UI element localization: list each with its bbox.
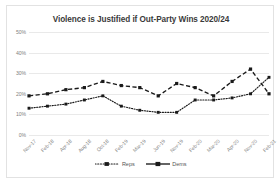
y-axis-tick-label: 40%	[16, 50, 26, 56]
data-point-marker	[120, 105, 123, 108]
legend-item-dems: Dems	[146, 161, 187, 167]
data-point-marker	[249, 67, 252, 70]
x-axis-tick-label: Nov-19	[169, 138, 184, 153]
data-point-marker	[212, 99, 215, 102]
x-axis-tick-label: Feb-20	[187, 138, 202, 153]
legend-label-reps: Reps	[122, 161, 135, 167]
data-point-marker	[175, 111, 178, 114]
data-point-marker	[157, 94, 160, 97]
y-axis-tick-label: 20%	[16, 91, 26, 97]
data-point-marker	[157, 111, 160, 114]
data-point-marker	[46, 92, 49, 95]
data-point-marker	[138, 109, 141, 112]
data-point-marker	[138, 86, 141, 89]
data-point-marker	[120, 84, 123, 87]
y-axis-tick-label: 50%	[16, 29, 26, 35]
gridline	[29, 135, 269, 136]
chart-legend: Reps Dems	[7, 161, 275, 167]
y-axis-tick-label: 10%	[16, 111, 26, 117]
data-point-marker	[175, 82, 178, 85]
legend-label-dems: Dems	[172, 161, 186, 167]
data-point-marker	[194, 86, 197, 89]
data-point-marker	[267, 92, 270, 95]
data-point-marker	[83, 99, 86, 102]
x-axis-tick-label: Mar-20	[206, 138, 221, 153]
data-point-marker	[28, 107, 31, 110]
x-axis-tick-label: Feb-19	[113, 138, 128, 153]
x-axis-ticks: Nov-17Feb-18Apr-18Aug-18Oct-18Feb-19Mar-…	[29, 138, 269, 162]
data-point-marker	[64, 88, 67, 91]
x-axis-tick-label: Feb-18	[40, 138, 55, 153]
data-point-marker	[83, 86, 86, 89]
legend-item-reps: Reps	[95, 161, 134, 167]
x-axis-tick-label: Jun-19	[151, 138, 166, 153]
y-axis-tick-label: 30%	[16, 70, 26, 76]
x-axis-tick-label: Nov-17	[21, 138, 36, 153]
data-point-marker	[212, 94, 215, 97]
x-axis-tick-label: Mar-19	[132, 138, 147, 153]
y-axis-tick-label: 0%	[19, 132, 26, 138]
x-axis-tick-label: Apr-20	[225, 138, 240, 153]
data-point-marker	[230, 80, 233, 83]
data-point-marker	[194, 99, 197, 102]
data-point-marker	[249, 92, 252, 95]
data-point-marker	[231, 96, 234, 99]
legend-marker-dotted-icon	[95, 161, 119, 167]
x-axis-tick-label: Apr-18	[59, 138, 74, 153]
x-axis-tick-label: Nov-20	[243, 138, 258, 153]
plot-area: 0%10%20%30%40%50%	[29, 32, 269, 135]
chart-card: Violence is Justified if Out-Party Wins …	[6, 5, 274, 178]
data-point-marker	[101, 94, 104, 97]
legend-marker-dashed-icon	[146, 161, 170, 167]
data-point-marker	[64, 103, 67, 106]
data-series-lines	[29, 32, 269, 135]
x-axis-tick-label: Oct-18	[96, 138, 111, 153]
data-point-marker	[46, 105, 49, 108]
data-point-marker	[27, 94, 30, 97]
chart-title: Violence is Justified if Out-Party Wins …	[7, 15, 275, 24]
x-axis-tick-label: Feb-21	[261, 138, 276, 153]
data-point-marker	[268, 76, 271, 79]
x-axis-tick-label: Aug-18	[77, 138, 92, 153]
data-point-marker	[101, 80, 104, 83]
